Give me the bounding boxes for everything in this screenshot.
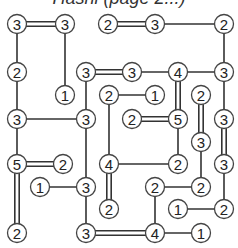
island-value: 2 (220, 16, 228, 33)
island[interactable]: 3 (56, 15, 75, 34)
island-value: 3 (82, 225, 90, 242)
island-value: 2 (59, 156, 67, 173)
island[interactable]: 2 (99, 15, 118, 34)
island[interactable]: 3 (77, 224, 96, 243)
island[interactable]: 4 (169, 63, 188, 82)
double-bridge[interactable] (15, 164, 19, 233)
island[interactable]: 1 (31, 178, 50, 197)
island[interactable]: 2 (123, 110, 142, 129)
island-value: 5 (13, 156, 21, 173)
island[interactable]: 2 (169, 155, 188, 174)
island[interactable]: 2 (8, 224, 27, 243)
island[interactable]: 2 (8, 63, 27, 82)
hashi-puzzle-board: 332322334312123325335242313222122341 (0, 0, 238, 248)
island[interactable]: 4 (100, 155, 119, 174)
island[interactable]: 3 (215, 63, 234, 82)
island[interactable]: 3 (77, 110, 96, 129)
island[interactable]: 5 (169, 110, 188, 129)
island[interactable]: 3 (77, 63, 96, 82)
island-value: 2 (151, 179, 159, 196)
island[interactable]: 3 (8, 15, 27, 34)
island-value: 3 (220, 156, 228, 173)
island-value: 3 (128, 64, 136, 81)
island[interactable]: 2 (54, 155, 73, 174)
island[interactable]: 2 (215, 200, 234, 219)
island-value: 2 (105, 87, 113, 104)
island-value: 3 (197, 134, 205, 151)
island-value: 3 (151, 16, 159, 33)
island[interactable]: 2 (192, 86, 211, 105)
island[interactable]: 2 (215, 15, 234, 34)
island[interactable]: 1 (56, 86, 75, 105)
island[interactable]: 3 (8, 110, 27, 129)
island-value: 1 (151, 87, 159, 104)
island-value: 1 (174, 201, 182, 218)
island-value: 2 (197, 179, 205, 196)
island[interactable]: 3 (192, 133, 211, 152)
island-value: 3 (61, 16, 69, 33)
island-value: 2 (174, 156, 182, 173)
island-value: 2 (13, 225, 21, 242)
island-value: 1 (61, 87, 69, 104)
island-value: 2 (220, 201, 228, 218)
island-value: 3 (13, 16, 21, 33)
island-value: 3 (13, 111, 21, 128)
island-value: 1 (36, 179, 44, 196)
island[interactable]: 3 (77, 178, 96, 197)
island-value: 1 (197, 225, 205, 242)
island-value: 2 (128, 111, 136, 128)
island[interactable]: 2 (100, 86, 119, 105)
island-value: 4 (105, 156, 113, 173)
island-value: 3 (82, 64, 90, 81)
island[interactable]: 3 (146, 15, 165, 34)
island[interactable]: 1 (169, 200, 188, 219)
island-value: 3 (220, 111, 228, 128)
island[interactable]: 2 (146, 178, 165, 197)
island-value: 5 (174, 111, 182, 128)
island[interactable]: 2 (100, 200, 119, 219)
double-bridge[interactable] (86, 231, 155, 235)
island-value: 2 (105, 201, 113, 218)
island-value: 3 (82, 111, 90, 128)
island[interactable]: 2 (192, 178, 211, 197)
island-value: 3 (220, 64, 228, 81)
island-value: 4 (174, 64, 182, 81)
island[interactable]: 3 (215, 155, 234, 174)
island-value: 2 (13, 64, 21, 81)
bridges-layer (15, 22, 226, 235)
island-value: 4 (151, 225, 159, 242)
island[interactable]: 1 (192, 224, 211, 243)
island-value: 2 (197, 87, 205, 104)
island[interactable]: 1 (146, 86, 165, 105)
island[interactable]: 3 (123, 63, 142, 82)
island[interactable]: 4 (146, 224, 165, 243)
island-value: 2 (104, 16, 112, 33)
island[interactable]: 5 (8, 155, 27, 174)
island[interactable]: 3 (215, 110, 234, 129)
island-value: 3 (82, 179, 90, 196)
